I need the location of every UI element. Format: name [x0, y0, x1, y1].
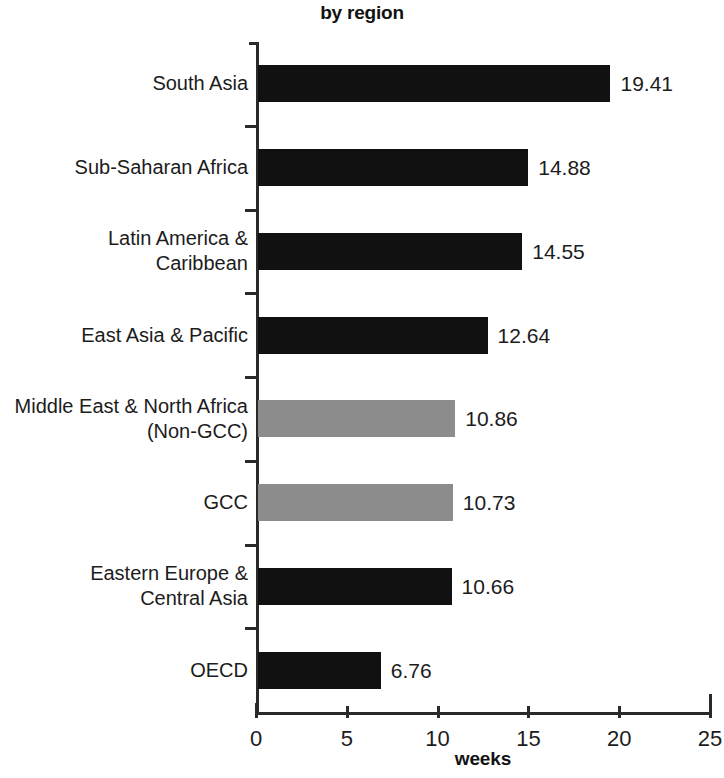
- y-axis-tick: [245, 627, 256, 630]
- bar: [258, 65, 610, 102]
- bar-value-label: 6.76: [391, 652, 432, 689]
- chart-title: by region: [0, 2, 724, 24]
- category-label: Latin America &Caribbean: [0, 226, 248, 276]
- bar-value-label: 14.88: [538, 149, 591, 186]
- category-label: OECD: [0, 658, 248, 683]
- bar-chart: by region South AsiaSub-Saharan AfricaLa…: [0, 0, 724, 778]
- bar: [258, 400, 455, 437]
- y-axis-tick: [245, 460, 256, 463]
- bar: [258, 484, 453, 521]
- bar-value-label: 10.86: [465, 400, 518, 437]
- bar-value-label: 14.55: [532, 233, 585, 270]
- y-axis-line: [256, 42, 259, 712]
- bar: [258, 317, 488, 354]
- bar-value-label: 10.66: [462, 568, 515, 605]
- y-axis-top-cap: [249, 42, 257, 45]
- bar: [258, 233, 522, 270]
- category-axis-labels: South AsiaSub-Saharan AfricaLatin Americ…: [0, 42, 248, 712]
- bar: [258, 652, 381, 689]
- x-axis-tick: [618, 706, 621, 718]
- bar-value-label: 10.73: [463, 484, 516, 521]
- x-axis-line: [256, 712, 710, 715]
- y-axis-tick: [245, 209, 256, 212]
- x-axis-tick: [527, 706, 530, 718]
- bar-value-label: 12.64: [498, 317, 551, 354]
- bar-value-label: 19.41: [620, 65, 673, 102]
- category-label: South Asia: [0, 71, 248, 96]
- bar: [258, 149, 528, 186]
- category-label: Middle East & North Africa(Non-GCC): [0, 394, 248, 444]
- x-axis-tick: [709, 694, 712, 718]
- category-label: Sub-Saharan Africa: [0, 155, 248, 180]
- category-label: East Asia & Pacific: [0, 323, 248, 348]
- y-axis-tick: [245, 125, 256, 128]
- x-axis-tick: [255, 703, 258, 718]
- category-label: Eastern Europe &Central Asia: [0, 561, 248, 611]
- bar: [258, 568, 452, 605]
- x-axis-tick: [346, 706, 349, 718]
- x-axis-tick: [437, 706, 440, 718]
- y-axis-tick: [245, 292, 256, 295]
- x-axis-title: weeks: [256, 748, 710, 770]
- category-label: GCC: [0, 490, 248, 515]
- y-axis-tick: [245, 376, 256, 379]
- plot-area: 0510152025 19.4114.8814.5512.6410.8610.7…: [256, 42, 710, 712]
- y-axis-tick: [245, 544, 256, 547]
